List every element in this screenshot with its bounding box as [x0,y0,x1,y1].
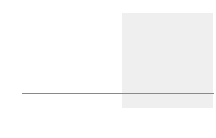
zero-baseline [22,93,214,94]
plot-area [25,16,213,108]
y-axis [0,16,23,108]
chart-container [0,0,216,138]
